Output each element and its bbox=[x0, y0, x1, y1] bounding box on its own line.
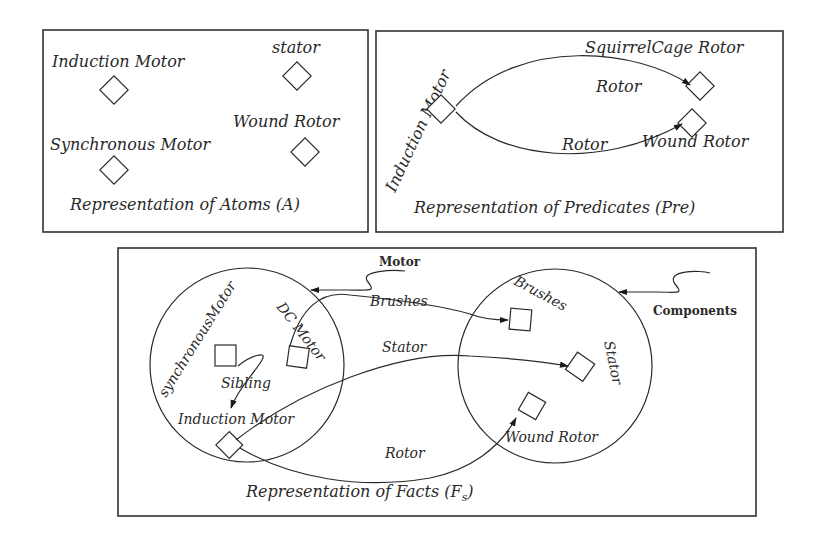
fact-edge-rotor bbox=[240, 418, 516, 483]
component-member-label-wound-rotor: Wound Rotor bbox=[505, 429, 599, 445]
predicate-edge-label-2: Rotor bbox=[561, 135, 609, 154]
motor-node-induction[interactable] bbox=[216, 432, 243, 459]
fact-edge-stator bbox=[236, 355, 568, 440]
atom-label-induction-motor: Induction Motor bbox=[51, 52, 186, 71]
atom-label-synchronous-motor: Synchronous Motor bbox=[50, 135, 211, 154]
fact-edge-label-stator: Stator bbox=[382, 339, 428, 355]
motor-class-pointer bbox=[311, 271, 405, 291]
predicate-edge-label-1: Rotor bbox=[595, 77, 643, 96]
knowledge-representation-diagram: Induction Motor stator Synchronous Motor… bbox=[0, 0, 816, 543]
components-class-pointer bbox=[619, 271, 710, 292]
atom-label-wound-rotor: Wound Rotor bbox=[233, 112, 341, 131]
predicate-target-label-squirrelcage-rotor: SquirrelCage Rotor bbox=[585, 38, 745, 57]
component-member-label-stator: Stator bbox=[601, 339, 626, 387]
sibling-edge-label: Sibling bbox=[221, 375, 271, 391]
atoms-panel: Induction Motor stator Synchronous Motor… bbox=[43, 30, 368, 232]
atom-node-stator[interactable] bbox=[283, 62, 311, 90]
atoms-caption: Representation of Atoms (A) bbox=[69, 195, 300, 214]
motor-member-label-induction: Induction Motor bbox=[177, 411, 295, 427]
component-member-label-brushes: Brushes bbox=[511, 272, 570, 314]
atom-label-stator: stator bbox=[272, 38, 321, 57]
atom-node-induction-motor[interactable] bbox=[100, 76, 128, 104]
component-node-stator[interactable] bbox=[565, 352, 594, 381]
predicate-source-label: Induction Motor bbox=[381, 65, 455, 195]
motor-class-title: Motor bbox=[379, 255, 421, 269]
predicate-edge-to-squirrelcage bbox=[456, 56, 690, 106]
components-class-title: Components bbox=[653, 304, 737, 318]
facts-panel: Motor synchronousMotor DC Motor Inductio… bbox=[118, 248, 756, 516]
facts-caption-close: ) bbox=[466, 482, 473, 501]
component-node-wound-rotor[interactable] bbox=[518, 392, 545, 419]
motor-node-synchronous[interactable] bbox=[215, 345, 236, 366]
motor-node-dc[interactable] bbox=[287, 346, 310, 369]
predicates-caption: Representation of Predicates (Pre) bbox=[413, 198, 695, 217]
atom-node-wound-rotor[interactable] bbox=[291, 138, 319, 166]
fact-edge-label-rotor: Rotor bbox=[384, 445, 426, 461]
facts-panel-border bbox=[118, 248, 756, 516]
component-node-brushes[interactable] bbox=[509, 308, 532, 331]
predicates-panel: Induction Motor SquirrelCage Rotor Wound… bbox=[376, 31, 783, 232]
facts-caption-main: Representation of Facts (F bbox=[245, 482, 463, 501]
predicate-node-squirrelcage-rotor[interactable] bbox=[686, 72, 714, 100]
atom-node-synchronous-motor[interactable] bbox=[100, 156, 128, 184]
predicate-target-label-wound-rotor: Wound Rotor bbox=[642, 132, 750, 151]
facts-caption: Representation of Facts (Fs) bbox=[245, 482, 474, 504]
fact-edge-label-brushes: Brushes bbox=[369, 293, 428, 309]
